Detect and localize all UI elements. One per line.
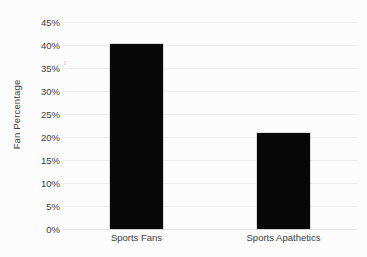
y-axis-tick-labels: 45%40%35%30%25%20%15%10%5%0% xyxy=(26,0,60,257)
gridline-1 xyxy=(63,45,357,46)
gridline-3 xyxy=(63,91,357,92)
gridline-7 xyxy=(63,183,357,184)
y-axis-title: Fan Percentage xyxy=(8,0,26,229)
gridline-6 xyxy=(63,160,357,161)
gridline-8 xyxy=(63,206,357,207)
y-axis-tick-9: 0% xyxy=(26,224,60,235)
gridline-5 xyxy=(63,137,357,138)
y-axis-tick-2: 35% xyxy=(26,63,60,74)
y-axis-tick-8: 5% xyxy=(26,201,60,212)
plot-area xyxy=(63,22,357,229)
y-axis-title-label: Fan Percentage xyxy=(12,80,23,150)
y-axis-tick-4: 25% xyxy=(26,109,60,120)
y-axis-tick-3: 30% xyxy=(26,86,60,97)
bar-1 xyxy=(257,133,310,229)
y-axis-tick-0: 45% xyxy=(26,17,60,28)
bar-chart: Fan Percentage 45%40%35%30%25%20%15%10%5… xyxy=(0,0,367,257)
x-axis-tick-0: Sports Fans xyxy=(111,232,162,243)
y-axis-tick-7: 10% xyxy=(26,178,60,189)
bar-0 xyxy=(110,44,163,229)
gridline-0 xyxy=(63,22,357,23)
gridline-9 xyxy=(63,229,357,230)
gridline-2 xyxy=(63,68,357,69)
y-axis-tick-1: 40% xyxy=(26,40,60,51)
x-axis-tick-labels: Sports FansSports Apathetics xyxy=(63,232,357,250)
y-axis-tick-6: 15% xyxy=(26,155,60,166)
gridline-4 xyxy=(63,114,357,115)
y-axis-tick-5: 20% xyxy=(26,132,60,143)
x-axis-tick-1: Sports Apathetics xyxy=(247,232,321,243)
